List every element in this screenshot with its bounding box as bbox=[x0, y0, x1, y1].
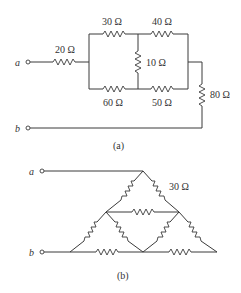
resistor-right-lower bbox=[188, 222, 201, 241]
terminal-a-node bbox=[26, 60, 30, 64]
circuit-a: a 20 Ω 30 Ω 40 Ω 10 Ω 60 Ω 50 Ω bbox=[15, 16, 230, 152]
terminal-b-node bbox=[26, 126, 30, 130]
resistor-80-label: 80 Ω bbox=[210, 89, 230, 100]
resistor-50 bbox=[151, 86, 173, 92]
terminal-a-label: a bbox=[29, 166, 34, 177]
resistor-30-label: 30 Ω bbox=[102, 16, 122, 27]
resistor-30-label: 30 Ω bbox=[169, 181, 189, 192]
resistor-inner-right bbox=[157, 222, 170, 241]
resistor-80 bbox=[199, 84, 205, 106]
resistor-10 bbox=[135, 51, 141, 73]
resistor-inner-left bbox=[115, 222, 128, 241]
terminal-b-label: b bbox=[15, 123, 20, 134]
figure-b-caption: (b) bbox=[117, 270, 129, 282]
resistor-30 bbox=[103, 31, 125, 37]
resistor-20 bbox=[53, 59, 75, 65]
terminal-b-label: b bbox=[29, 247, 34, 258]
terminal-a-node bbox=[40, 169, 44, 173]
resistor-40 bbox=[151, 31, 173, 37]
resistor-40-label: 40 Ω bbox=[152, 16, 172, 27]
resistor-left-lower bbox=[84, 222, 97, 241]
resistor-60 bbox=[103, 86, 125, 92]
terminal-a-label: a bbox=[15, 57, 20, 68]
resistor-60-label: 60 Ω bbox=[103, 97, 123, 108]
resistor-bottom-left bbox=[96, 249, 118, 255]
resistor-apex-right-30 bbox=[152, 181, 165, 200]
circuit-b: a 30 Ω b bbox=[29, 166, 217, 282]
resistor-apex-left bbox=[121, 181, 134, 200]
terminal-b-node bbox=[40, 250, 44, 254]
resistor-bottom-right bbox=[169, 249, 191, 255]
circuit-figure: a 20 Ω 30 Ω 40 Ω 10 Ω 60 Ω 50 Ω bbox=[0, 0, 241, 293]
resistor-50-label: 50 Ω bbox=[152, 97, 172, 108]
resistor-10-label: 10 Ω bbox=[146, 57, 166, 68]
resistor-20-label: 20 Ω bbox=[55, 44, 75, 55]
resistor-mid-horizontal bbox=[132, 209, 154, 215]
figure-a-caption: (a) bbox=[113, 140, 124, 152]
